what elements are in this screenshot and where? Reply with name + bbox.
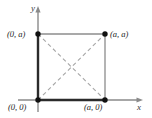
vertex-dot-bottom-left xyxy=(35,97,40,102)
y-axis-arrow-icon xyxy=(35,6,40,13)
vertex-dot-top-left xyxy=(35,31,40,36)
diagonals-group xyxy=(38,34,105,100)
vertex-label-bottom-left: (0, 0) xyxy=(8,103,26,112)
vertex-dot-top-right xyxy=(102,31,107,36)
vertex-markers-group xyxy=(35,31,107,102)
x-axis-label: x xyxy=(137,103,141,112)
vertex-label-top-right: (a, a) xyxy=(110,30,128,39)
vertex-dot-bottom-right xyxy=(102,97,107,102)
figure-canvas xyxy=(0,0,152,118)
vertex-label-bottom-right: (a, 0) xyxy=(84,103,102,112)
axis-group xyxy=(18,6,143,112)
vertex-label-top-left: (0, a) xyxy=(7,30,25,39)
y-axis-label: y xyxy=(31,4,35,13)
geometry-figure: (0, a) (a, a) (0, 0) (a, 0) y x xyxy=(0,0,152,118)
